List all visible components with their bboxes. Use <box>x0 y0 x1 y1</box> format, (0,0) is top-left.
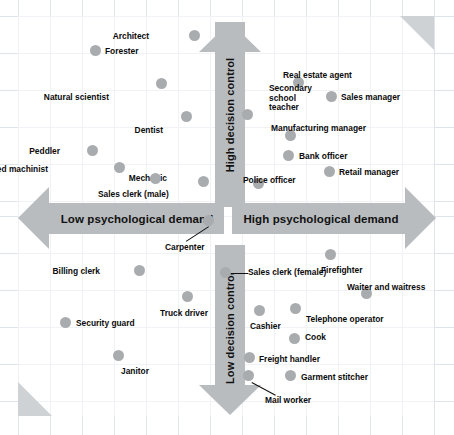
data-point-label: Real estate agent <box>283 71 352 81</box>
data-point-label: Forester <box>105 47 139 57</box>
data-point-sales-manager[interactable] <box>326 91 337 102</box>
data-point-bank-officer[interactable] <box>283 150 294 161</box>
data-point-firefighter[interactable] <box>325 249 336 260</box>
data-point-label: Mechanic <box>0 174 167 184</box>
data-point-label: Freight handler <box>259 355 320 365</box>
data-point-sales-clerk-female[interactable] <box>220 267 231 278</box>
axis-label-high-psychological-demand-text: High psychological demand <box>243 213 398 225</box>
data-point-truck-driver[interactable] <box>182 291 193 302</box>
data-point-label: Billing clerk <box>0 267 100 277</box>
corner-wedge-top-right <box>400 16 434 50</box>
data-point-label: Security guard <box>76 319 135 329</box>
arrow-left-head <box>18 187 49 249</box>
data-point-label: Manufacturing manager <box>271 124 366 134</box>
data-point-label: Police officer <box>243 176 296 186</box>
data-point-garment-stitcher[interactable] <box>285 370 296 381</box>
data-point-peddler[interactable] <box>87 145 98 156</box>
data-point-cook[interactable] <box>289 333 300 344</box>
data-point-telephone-operator[interactable] <box>290 303 301 314</box>
data-point-label: Secondary school teacher <box>269 84 325 113</box>
data-point-label: Bank officer <box>299 152 347 162</box>
data-point-freight-handler[interactable] <box>244 352 255 363</box>
data-point-forester[interactable] <box>90 45 101 56</box>
data-point-label: Cashier <box>250 322 281 332</box>
axis-label-low-decision-control-text: Low decision control <box>224 271 236 383</box>
data-point-label: Natural scientist <box>0 93 109 103</box>
data-point-secondary-school-teacher[interactable] <box>242 109 253 120</box>
data-point-label: Truck driver <box>160 309 208 319</box>
data-point-label: Sales manager <box>341 93 400 103</box>
data-point-security-guard[interactable] <box>60 317 71 328</box>
data-point-label: Firefighter <box>321 266 362 276</box>
axis-label-high-decision-control-text: High decision control <box>224 58 236 173</box>
data-point-mechanic[interactable] <box>198 176 209 187</box>
data-point-janitor[interactable] <box>113 350 124 361</box>
data-point-label: Sales clerk (male) <box>98 190 169 200</box>
data-point-billing-clerk[interactable] <box>134 265 145 276</box>
data-point-label: Waiter and waitress <box>347 283 425 293</box>
data-point-natural-scientist[interactable] <box>156 78 167 89</box>
data-point-label: Telephone operator <box>306 315 384 325</box>
data-point-sales-clerk-male[interactable] <box>150 173 161 184</box>
data-point-label: Retail manager <box>339 168 399 178</box>
data-point-label: Dentist <box>0 126 163 136</box>
data-point-retail-manager[interactable] <box>324 166 335 177</box>
axis-label-low-decision-control: Low decision control <box>214 255 246 400</box>
data-point-label: Cook <box>305 333 326 343</box>
data-point-label: Garment stitcher <box>301 373 368 383</box>
data-point-skilled-machinist[interactable] <box>114 162 125 173</box>
data-point-label: Carpenter <box>165 243 205 253</box>
data-point-label: Sales clerk (female) <box>248 268 326 278</box>
axis-label-low-psychological-demand: Low psychological demand <box>52 210 222 228</box>
axis-label-low-psychological-demand-text: Low psychological demand <box>61 213 214 225</box>
arrow-right-head <box>405 187 436 249</box>
data-point-label: Architect <box>0 32 149 42</box>
data-point-dentist[interactable] <box>181 111 192 122</box>
chart-canvas: High decision control Low decision contr… <box>0 0 454 435</box>
data-point-architect[interactable] <box>189 30 200 41</box>
data-point-carpenter[interactable] <box>203 215 214 226</box>
axis-label-high-psychological-demand: High psychological demand <box>236 210 406 228</box>
data-point-mail-worker[interactable] <box>243 370 254 381</box>
data-point-label: Peddler <box>0 147 60 157</box>
corner-wedge-bottom-left <box>18 382 52 416</box>
data-point-label: Janitor <box>121 367 149 377</box>
label-leader-line <box>232 273 248 274</box>
data-point-label: Mail worker <box>265 396 311 406</box>
data-point-cashier[interactable] <box>254 305 265 316</box>
